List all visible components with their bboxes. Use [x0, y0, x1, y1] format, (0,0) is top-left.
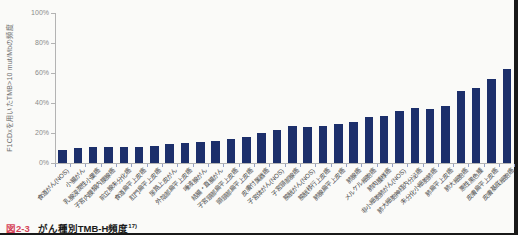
x-axis-tick [407, 164, 408, 167]
bar [273, 130, 282, 163]
page-edge-right [514, 0, 518, 235]
y-tick-label: 40% [19, 99, 49, 107]
page-edge-bottom [0, 233, 518, 235]
bar [411, 108, 420, 163]
x-axis-tick [331, 164, 332, 167]
x-axis-tick [239, 164, 240, 167]
x-axis-tick [55, 164, 56, 167]
bar [457, 91, 466, 163]
bar [334, 124, 343, 163]
x-axis-tick [361, 164, 362, 167]
bar [89, 147, 98, 163]
bar [165, 144, 174, 164]
x-axis-tick [162, 164, 163, 167]
figure-page: F1CDxを用いたTMB>10 mut/Mbの頻度 図2-3がん種別TMB-H頻… [0, 0, 518, 235]
bar [135, 147, 144, 164]
bar [349, 122, 358, 163]
y-tick-label: 20% [19, 129, 49, 137]
bar [472, 88, 481, 163]
x-axis-tick [484, 164, 485, 167]
y-axis-tick [51, 43, 55, 44]
x-axis-tick [85, 164, 86, 167]
y-axis-tick [51, 133, 55, 134]
y-tick-label: 60% [19, 69, 49, 77]
bar [380, 116, 389, 163]
x-axis-line [55, 163, 511, 164]
bar [211, 141, 220, 163]
x-axis-tick [147, 164, 148, 167]
x-axis-tick [208, 164, 209, 167]
x-axis-tick [101, 164, 102, 167]
x-axis-tick [453, 164, 454, 167]
bar [227, 139, 236, 163]
x-axis-tick [315, 164, 316, 167]
bar [426, 109, 435, 163]
x-axis-tick [131, 164, 132, 167]
bar [150, 146, 159, 163]
y-axis-tick [51, 13, 55, 14]
y-axis-title: F1CDxを用いたTMB>10 mut/Mbの頻度 [4, 8, 14, 168]
bar [303, 127, 312, 163]
x-axis-tick [254, 164, 255, 167]
bar [288, 126, 297, 163]
x-axis-tick [285, 164, 286, 167]
x-axis-tick [300, 164, 301, 167]
x-axis-tick [346, 164, 347, 167]
bar [503, 69, 512, 164]
bar [242, 137, 251, 163]
y-axis-tick [51, 73, 55, 74]
x-axis-tick [223, 164, 224, 167]
x-axis-tick [438, 164, 439, 167]
x-axis-tick [499, 164, 500, 167]
x-axis-tick [116, 164, 117, 167]
bar [395, 111, 404, 163]
bar [257, 133, 266, 163]
x-axis-tick [70, 164, 71, 167]
y-tick-label: 100% [19, 9, 49, 17]
y-tick-label: 0% [19, 159, 49, 167]
x-axis-tick [423, 164, 424, 167]
y-tick-label: 80% [19, 39, 49, 47]
x-axis-tick [193, 164, 194, 167]
bar [441, 106, 450, 163]
bar [120, 147, 129, 164]
x-axis-tick [269, 164, 270, 167]
x-axis-tick [392, 164, 393, 167]
x-axis-tick [377, 164, 378, 167]
bar [104, 147, 113, 164]
bar [487, 79, 496, 163]
bar [181, 143, 190, 163]
bar [365, 117, 374, 164]
x-axis-tick [177, 164, 178, 167]
y-axis-line [55, 13, 56, 163]
bar [196, 142, 205, 163]
bar [74, 148, 83, 163]
y-axis-tick [51, 103, 55, 104]
x-axis-tick [468, 164, 469, 167]
figure-reference: 17) [128, 223, 137, 229]
bar [319, 126, 328, 164]
x-axis-tick [514, 164, 515, 167]
bar [58, 150, 67, 164]
